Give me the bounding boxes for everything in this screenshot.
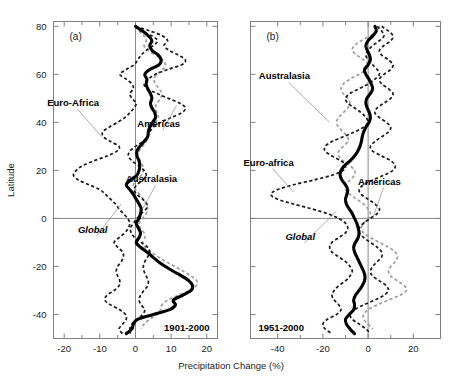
period-label-a: 1901-2000 [164,322,209,333]
ytick-label-5: -20 [33,261,47,272]
series-label-a-americas: Americas [137,118,180,129]
leader-line-a-australasia [143,185,156,208]
ytick-label-6: -40 [33,309,47,320]
ytick-label-2: 40 [36,117,47,128]
xtick-label-b-0: -40 [271,343,285,354]
series-label-a-euro-africa: Euro-Africa [47,97,99,108]
leader-line-a-euro-africa [77,109,102,137]
xtick-label-a-4: 20 [202,343,213,354]
xtick-label-a-1: -10 [93,343,107,354]
series-label-b-australasia: Australasia [259,70,311,81]
xtick-label-b-2: 0 [365,343,370,354]
x-axis-title: Precipitation Change (%) [178,360,284,371]
ytick-label-3: 20 [36,165,47,176]
plot-frame-b [251,22,441,339]
period-label-b: 1951-2000 [259,322,304,333]
leader-line-b-australasia [288,82,329,122]
precipitation-latitude-figure: -20-1001020806040200-20-40(a)1901-2000Eu… [0,0,462,384]
series-label-a-global: Global [78,224,108,235]
ytick-label-1: 60 [36,69,47,80]
series-label-b-americas: Americas [358,176,401,187]
xtick-label-b-3: 20 [408,343,419,354]
y-axis-title: Latitude [5,163,16,197]
panel-tag-a: (a) [70,31,82,42]
series-label-b-euro-africa: Euro-africa [244,157,295,168]
panel-tag-b: (b) [267,31,279,42]
xtick-label-b-1: -20 [316,343,330,354]
series-label-a-australasia: Australasia [126,173,178,184]
xtick-label-a-0: -20 [57,343,71,354]
ytick-label-4: 0 [41,213,46,224]
ytick-label-0: 80 [36,21,47,32]
figure-canvas: -20-1001020806040200-20-40(a)1901-2000Eu… [0,0,462,384]
xtick-label-a-2: 0 [133,343,138,354]
series-label-b-global: Global [285,231,315,242]
xtick-label-a-3: 10 [166,343,177,354]
